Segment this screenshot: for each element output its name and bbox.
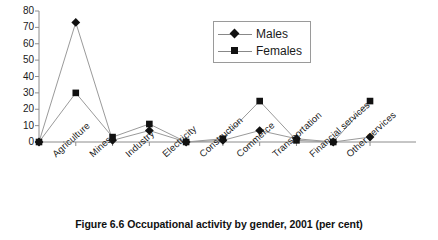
legend-label-females: Females — [256, 44, 302, 58]
figure-caption: Figure 6.6 Occupational activity by gend… — [0, 218, 438, 230]
x-axis-tick-mines: Mines — [87, 134, 114, 159]
figure-container: 80706050403020100 AgricultureMinesIndust… — [0, 0, 438, 240]
x-axis-tick-industry: Industry — [123, 128, 156, 159]
x-axis-tick-financial-services: Financial services — [307, 99, 372, 159]
legend-label-males: Males — [256, 27, 288, 41]
chart-plot-area: 80706050403020100 AgricultureMinesIndust… — [0, 0, 438, 212]
diamond-marker-icon — [218, 28, 252, 40]
x-axis-tick-agriculture: Agriculture — [50, 120, 92, 159]
x-axis-tick-electricity: Electricity — [160, 123, 198, 159]
legend-item-males: Males — [218, 25, 302, 42]
square-marker-icon — [218, 45, 252, 57]
legend-item-females: Females — [218, 42, 302, 59]
chart-legend: Males Females — [213, 21, 311, 63]
